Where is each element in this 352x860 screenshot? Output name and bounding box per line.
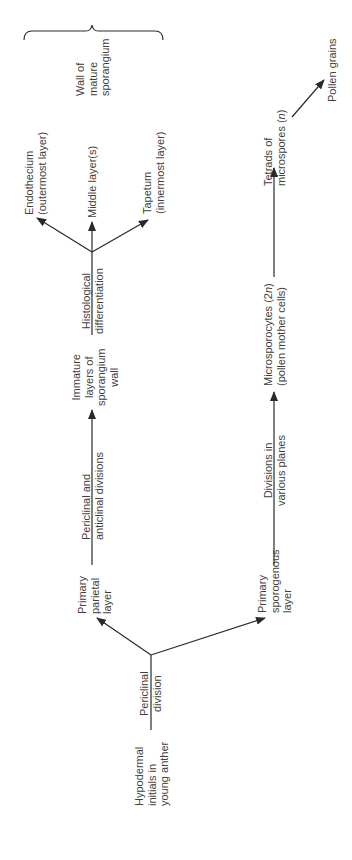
label-line: Periclinal and: [80, 452, 93, 540]
label-line: layers of: [83, 349, 96, 406]
label-line: Divisions in: [262, 435, 275, 506]
edge-divisions-various-planes: Divisions in various planes: [262, 435, 287, 506]
label-line: sporangium: [95, 349, 108, 406]
label-line: parietal: [89, 576, 102, 614]
node-immature-layers: Immature layers of sporangium wall: [70, 349, 120, 406]
label-line: Primary: [76, 576, 89, 614]
arrow-to-endothecium: [37, 218, 92, 252]
label-line: various planes: [275, 435, 288, 506]
label-line: (pollen mother cells): [275, 283, 288, 386]
label-line: layer: [281, 549, 294, 613]
label-line: sporangium: [99, 39, 112, 96]
node-hypodermal-initials: Hypodermal initials in young anther: [133, 742, 171, 806]
label-line: Endothecium: [23, 132, 36, 215]
arrow-to-tapetum: [92, 220, 148, 252]
label-line: Immature: [70, 349, 83, 406]
label-line: Tetrads of: [262, 110, 275, 186]
label-line: microspores (n): [275, 110, 288, 186]
node-endothecium: Endothecium (outermost layer): [23, 132, 48, 215]
label-line: Microsporocytes (2n): [262, 283, 275, 386]
label-line: Pollen grains: [326, 38, 339, 102]
label-line: Histological: [80, 268, 93, 334]
label-line: anticlinal divisions: [93, 452, 106, 540]
label-line: Primary: [256, 549, 269, 613]
node-primary-parietal: Primary parietal layer: [76, 576, 114, 614]
label-line: layer: [101, 576, 114, 614]
label-line: mature: [87, 39, 100, 96]
label-line: Hypodermal: [133, 742, 146, 806]
arrow-to-parietal: [97, 618, 151, 655]
label-line: Middle layer(s): [86, 146, 99, 218]
node-tetrads: Tetrads of microspores (n): [262, 110, 287, 186]
label-line: Tapetum: [141, 131, 154, 214]
node-primary-sporogenous: Primary sporogenous layer: [256, 549, 294, 613]
edge-periclinal-anticlinal: Periclinal and anticlinal divisions: [80, 452, 105, 540]
arrow-to-sporogenous: [151, 618, 265, 655]
edge-periclinal-division: Periclinal division: [138, 671, 163, 716]
label-line: young anther: [158, 742, 171, 806]
anther-development-diagram: Hypodermal initials in young anther Peri…: [0, 0, 352, 860]
node-pollen-grains: Pollen grains: [326, 38, 339, 102]
label-line: Periclinal: [138, 671, 151, 716]
label-line: (outermost layer): [36, 132, 49, 215]
label-line: initials in: [146, 742, 159, 806]
label-line: differentiation: [93, 268, 106, 334]
edge-histological-differentiation: Histological differentiation: [80, 268, 105, 334]
node-microsporocytes: Microsporocytes (2n) (pollen mother cell…: [262, 283, 287, 386]
node-tapetum: Tapetum (innermost layer): [141, 131, 166, 214]
label-line: sporogenous: [269, 549, 282, 613]
label-line: division: [151, 671, 164, 716]
node-middle-layers: Middle layer(s): [86, 146, 99, 218]
label-line: wall: [108, 349, 121, 406]
label-line: (innermost layer): [154, 131, 167, 214]
diagram-connectors: [0, 0, 352, 860]
arrow-to-pollen: [292, 80, 324, 117]
label-line: Wall of: [74, 39, 87, 96]
node-wall-of-mature-sporangium: Wall of mature sporangium: [74, 39, 112, 96]
